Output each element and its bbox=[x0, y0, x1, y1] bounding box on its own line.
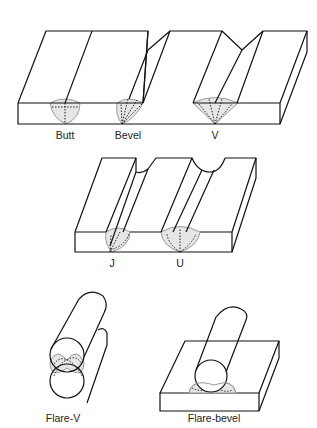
label-flare-v: Flare-V bbox=[46, 413, 80, 424]
label-v: V bbox=[211, 130, 218, 141]
middle-plate-j-u bbox=[75, 158, 256, 252]
label-flare-bevel: Flare-bevel bbox=[188, 413, 241, 424]
u-weld bbox=[161, 227, 200, 253]
weld-joints-diagram bbox=[0, 0, 317, 428]
label-j: J bbox=[109, 258, 114, 269]
flare-bevel-joint bbox=[160, 307, 279, 411]
j-weld bbox=[106, 228, 130, 252]
top-plate-butt-bevel-v bbox=[18, 31, 307, 124]
label-u: U bbox=[176, 258, 184, 269]
flare-v-joint bbox=[50, 292, 107, 403]
label-bevel: Bevel bbox=[115, 130, 141, 141]
label-butt: Butt bbox=[56, 130, 75, 141]
